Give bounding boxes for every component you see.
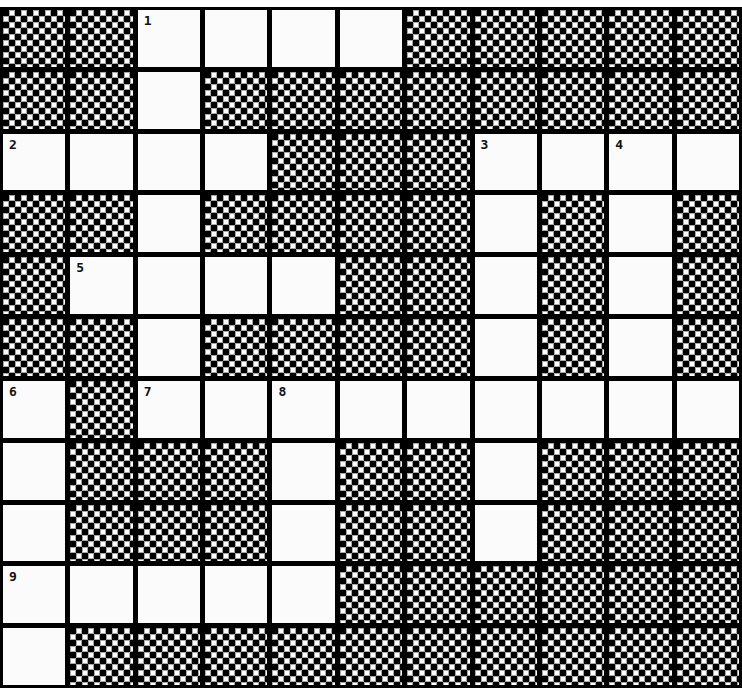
crossword-cell[interactable]: 6 — [3, 381, 65, 438]
cell-letter — [3, 381, 65, 438]
crossword-cell[interactable] — [272, 566, 334, 623]
crossword-cell[interactable] — [475, 381, 537, 438]
blocked-cell — [340, 72, 402, 129]
blocked-cell — [70, 319, 132, 376]
cell-letter — [272, 257, 334, 314]
blocked-cell — [70, 381, 132, 438]
blocked-cell — [3, 257, 65, 314]
crossword-cell[interactable] — [475, 443, 537, 500]
blocked-cell — [542, 257, 604, 314]
blocked-cell — [138, 628, 200, 685]
crossword-cell[interactable] — [677, 134, 739, 191]
cell-letter — [138, 566, 200, 623]
blocked-cell — [609, 72, 671, 129]
blocked-cell — [542, 505, 604, 562]
cell-letter — [677, 134, 739, 191]
blocked-cell — [272, 628, 334, 685]
blocked-cell — [340, 566, 402, 623]
blocked-cell — [677, 443, 739, 500]
crossword-cell[interactable] — [138, 72, 200, 129]
crossword-cell[interactable] — [272, 10, 334, 67]
crossword-cell[interactable] — [542, 134, 604, 191]
crossword-cell[interactable] — [475, 505, 537, 562]
crossword-cell[interactable] — [138, 319, 200, 376]
crossword-cell[interactable] — [3, 443, 65, 500]
blocked-cell — [70, 443, 132, 500]
crossword-cell[interactable]: 1 — [138, 10, 200, 67]
crossword-cell[interactable] — [677, 381, 739, 438]
cell-letter — [407, 381, 469, 438]
crossword-cell[interactable] — [205, 10, 267, 67]
crossword-cell[interactable] — [138, 257, 200, 314]
blocked-cell — [542, 319, 604, 376]
crossword-cell[interactable] — [475, 257, 537, 314]
crossword-cell[interactable]: 8 — [272, 381, 334, 438]
crossword-cell[interactable] — [340, 10, 402, 67]
crossword-cell[interactable]: 4 — [609, 134, 671, 191]
crossword-cell[interactable] — [70, 566, 132, 623]
blocked-cell — [609, 443, 671, 500]
blocked-cell — [677, 566, 739, 623]
blocked-cell — [677, 505, 739, 562]
crossword-cell[interactable] — [609, 381, 671, 438]
crossword-cell[interactable] — [205, 566, 267, 623]
cell-letter — [272, 10, 334, 67]
crossword-cell[interactable] — [70, 134, 132, 191]
blocked-cell — [3, 319, 65, 376]
cell-letter — [70, 566, 132, 623]
cell-letter — [340, 10, 402, 67]
crossword-cell[interactable] — [3, 505, 65, 562]
blocked-cell — [542, 195, 604, 252]
crossword-cell[interactable]: 7 — [138, 381, 200, 438]
crossword-cell[interactable] — [542, 381, 604, 438]
crossword-cell[interactable] — [609, 195, 671, 252]
blocked-cell — [677, 72, 739, 129]
cell-letter — [205, 134, 267, 191]
cell-letter — [70, 134, 132, 191]
crossword-cell[interactable] — [138, 566, 200, 623]
cell-letter — [542, 381, 604, 438]
blocked-cell — [138, 505, 200, 562]
crossword-cell[interactable] — [138, 195, 200, 252]
blocked-cell — [677, 628, 739, 685]
crossword-cell[interactable]: 2 — [3, 134, 65, 191]
blocked-cell — [475, 566, 537, 623]
crossword-cell[interactable] — [609, 257, 671, 314]
cell-letter — [138, 319, 200, 376]
blocked-cell — [542, 628, 604, 685]
blocked-cell — [340, 443, 402, 500]
crossword-cell[interactable] — [205, 257, 267, 314]
crossword-cell[interactable] — [609, 319, 671, 376]
blocked-cell — [407, 257, 469, 314]
crossword-cell[interactable] — [205, 134, 267, 191]
crossword-cell[interactable] — [272, 443, 334, 500]
blocked-cell — [475, 72, 537, 129]
cell-letter — [138, 195, 200, 252]
crossword-cell[interactable] — [340, 381, 402, 438]
crossword-cell[interactable]: 3 — [475, 134, 537, 191]
blocked-cell — [340, 257, 402, 314]
crossword-cell[interactable] — [138, 134, 200, 191]
cell-letter — [609, 134, 671, 191]
crossword-cell[interactable] — [272, 505, 334, 562]
crossword-cell[interactable] — [475, 195, 537, 252]
crossword-cell[interactable] — [475, 319, 537, 376]
crossword-cell[interactable] — [205, 381, 267, 438]
crossword-cell[interactable]: 9 — [3, 566, 65, 623]
blocked-cell — [407, 628, 469, 685]
blocked-cell — [407, 443, 469, 500]
cell-letter — [609, 319, 671, 376]
crossword-cell[interactable] — [272, 257, 334, 314]
cell-letter — [3, 566, 65, 623]
cell-letter — [138, 381, 200, 438]
blocked-cell — [70, 72, 132, 129]
blocked-cell — [407, 319, 469, 376]
cell-letter — [475, 257, 537, 314]
cell-letter — [70, 257, 132, 314]
crossword-grid: 123456789 — [3, 10, 739, 685]
cell-letter — [205, 381, 267, 438]
crossword-cell[interactable] — [3, 628, 65, 685]
crossword-cell[interactable]: 5 — [70, 257, 132, 314]
blocked-cell — [3, 195, 65, 252]
crossword-cell[interactable] — [407, 381, 469, 438]
